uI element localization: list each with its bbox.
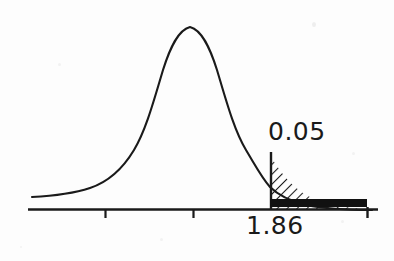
critical-value-label: 1.86 [246,212,304,240]
figure-canvas [0,0,394,261]
normal-curve-figure: 0.05 1.86 [0,0,394,261]
tail-area-probability-label: 0.05 [268,118,326,146]
tail-emphasis-bar [270,199,367,207]
